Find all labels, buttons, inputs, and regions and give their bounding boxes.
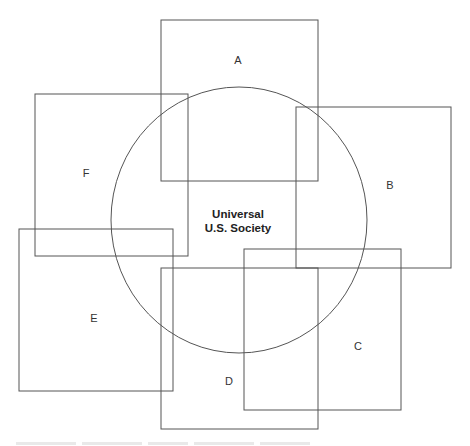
box-b (296, 107, 451, 268)
box-b-label: B (386, 179, 393, 191)
box-c (244, 249, 401, 410)
center-label-line2: U.S. Society (205, 222, 272, 234)
box-a-label: A (234, 54, 242, 66)
center-label-line1: Universal (212, 208, 264, 220)
box-c-label: C (354, 340, 362, 352)
cropped-caption (16, 437, 346, 446)
box-d (161, 268, 318, 429)
box-d-label: D (225, 375, 233, 387)
universal-society-circle (111, 87, 367, 353)
box-e (19, 229, 173, 391)
venn-diagram: A B C D E F Universal U.S. Society (0, 0, 470, 446)
box-f-label: F (83, 167, 90, 179)
box-e-label: E (90, 312, 97, 324)
